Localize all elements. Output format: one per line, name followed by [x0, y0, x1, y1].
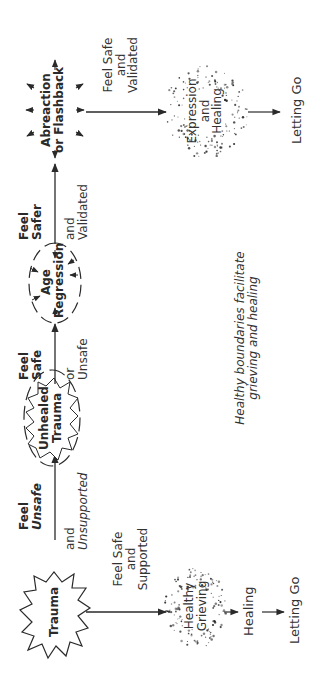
stipple-dot [207, 148, 208, 149]
stipple-dot [238, 91, 240, 93]
caption: Healthy boundaries facilitate grieving a… [234, 248, 259, 428]
edge-label-text: Unsafe [77, 338, 90, 380]
node-trauma-label: Trauma [47, 587, 61, 637]
edge-label-feel-safe-and-validated: Feel Safe and Validated [102, 32, 140, 98]
stipple-dot [226, 95, 227, 96]
stipple-dot [232, 114, 234, 116]
stipple-dot [212, 607, 214, 609]
stipple-dot [170, 625, 173, 628]
edge-label-and-unsupported: and Unsupported [64, 473, 89, 550]
node-expression-healing: Expression and Healing [186, 78, 224, 144]
stipple-dot [198, 156, 199, 157]
node-abreaction: Abreaction or Flashback [40, 66, 65, 154]
edge-label-text: and [64, 184, 77, 240]
stipple-dot [204, 145, 206, 147]
stipple-dot [211, 145, 213, 147]
stipple-dot [215, 155, 217, 157]
stipple-dot [220, 151, 222, 153]
stipple-dot [167, 121, 169, 123]
stipple-dot [208, 642, 209, 643]
stipple-dot [170, 104, 171, 105]
stipple-dot [217, 145, 218, 146]
stipple-dot [172, 134, 173, 135]
stipple-dot [171, 603, 173, 605]
stipple-dot [200, 144, 201, 145]
stipple-dot [220, 604, 222, 606]
stipple-dot [221, 595, 222, 596]
stipple-dot [209, 631, 210, 632]
stipple-dot [210, 638, 213, 641]
stipple-dot [212, 597, 213, 598]
stipple-dot [220, 147, 222, 149]
edge-label-feel-safer: Feel Safer [18, 204, 43, 240]
stipple-dot [174, 115, 175, 116]
edge-label-text: Feel Safe [112, 524, 125, 594]
stipple-dot [169, 610, 170, 611]
edge-label-feel-safe: Feel Safe [18, 350, 43, 380]
stipple-dot [237, 111, 238, 112]
stipple-dot [238, 96, 239, 97]
node-age-regression: Age Regression [40, 246, 65, 318]
stipple-dot [243, 126, 245, 128]
edge-label-feel-unsafe: Feel Unsafe [18, 483, 43, 530]
diagram-canvas: Trauma Feel Unsafe and Unsupported Unhea… [0, 0, 315, 680]
stipple-dot [215, 602, 218, 605]
stipple-dot [194, 640, 196, 642]
node-label-line: Healing [211, 78, 224, 144]
stipple-dot [175, 581, 177, 583]
stipple-dot [225, 92, 227, 94]
stipple-dot [232, 84, 234, 86]
stipple-dot [239, 117, 240, 118]
stipple-dot [212, 581, 213, 582]
stipple-dot [220, 626, 222, 628]
stipple-dot [178, 604, 180, 606]
node-label-line: Grieving [196, 574, 209, 638]
stipple-dot [224, 84, 226, 86]
stipple-dot [171, 119, 172, 120]
stipple-dot [218, 580, 220, 582]
stipple-dot [210, 578, 212, 580]
stipple-dot [189, 569, 191, 571]
node-label-line: Trauma [51, 378, 64, 458]
stipple-dot [209, 637, 211, 639]
stipple-dot [171, 594, 172, 595]
stipple-dot [168, 89, 170, 91]
stipple-dot [234, 116, 236, 118]
stipple-dot [216, 150, 218, 152]
stipple-dot [179, 137, 180, 138]
edge-label-text: Unsafe [31, 483, 44, 530]
stipple-dot [210, 634, 211, 635]
stipple-dot [226, 86, 229, 89]
stipple-dot [234, 128, 235, 129]
stipple-dot [170, 611, 172, 613]
edge-label-text: Supported [137, 524, 150, 594]
stipple-dot [174, 579, 176, 581]
edge-label-text: Validated [77, 184, 90, 240]
stipple-dot [174, 602, 176, 604]
stipple-dot [195, 641, 196, 642]
stipple-dot [210, 636, 211, 637]
node-label-line: or Flashback [53, 66, 66, 154]
stipple-dot [165, 610, 166, 611]
stipple-dot [197, 640, 199, 642]
stipple-dot [173, 90, 175, 92]
node-trauma: Trauma [48, 584, 61, 640]
stipple-dot [171, 87, 173, 89]
stipple-dot [234, 133, 235, 134]
stipple-dot [210, 583, 212, 585]
caption-line: Healthy boundaries facilitate [234, 248, 247, 428]
stipple-dot [177, 116, 178, 117]
stipple-dot [238, 106, 240, 108]
node-label-line: Healthy [183, 574, 196, 638]
stipple-dot [216, 580, 217, 581]
stipple-dot [177, 618, 178, 619]
stipple-dot [237, 112, 238, 113]
stipple-dot [172, 92, 174, 94]
stipple-dot [175, 87, 177, 89]
stipple-dot [188, 147, 190, 149]
stipple-dot [176, 623, 177, 624]
stipple-dot [200, 572, 201, 573]
stipple-dot [224, 600, 225, 601]
stipple-dot [218, 604, 220, 606]
node-unhealed-trauma: Unhealed Trauma [38, 378, 63, 458]
